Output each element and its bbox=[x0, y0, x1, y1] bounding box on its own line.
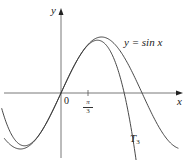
t3-label-subscript: 3 bbox=[136, 138, 140, 146]
y-axis-label: y bbox=[51, 5, 56, 16]
t3-curve-label: T3 bbox=[130, 133, 140, 146]
y-axis-arrow-icon bbox=[59, 8, 64, 15]
origin-label: 0 bbox=[64, 96, 69, 106]
t3-taylor-curve bbox=[2, 40, 137, 160]
axes bbox=[4, 8, 183, 158]
x-axis-label: x bbox=[177, 96, 182, 107]
tick-denominator: 3 bbox=[83, 108, 93, 116]
tick-label-pi-over-3: π 3 bbox=[83, 99, 93, 115]
sin-curve-label: y = sin x bbox=[124, 37, 162, 48]
chart-plot bbox=[0, 0, 193, 160]
